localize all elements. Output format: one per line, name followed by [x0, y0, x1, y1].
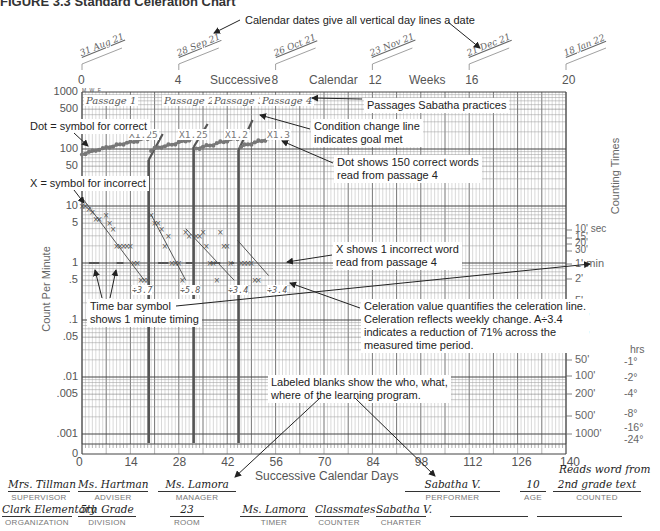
correct-multiplier-label: X1.25	[178, 129, 209, 140]
callout-condition-change: Condition change line indicates goal met	[311, 119, 423, 147]
field-value: Ms. Lamora	[158, 477, 236, 492]
top-week-tick: 20	[562, 73, 575, 87]
passage-label: Passage 3	[212, 95, 266, 106]
form-field-supervisor[interactable]: Mrs. TillmanSUPERVISOR	[8, 477, 70, 502]
form-field-timer[interactable]: Ms. LamoraTIMER	[240, 502, 308, 527]
field-value: 2nd grade text	[553, 477, 641, 492]
field-value: Ms. Lamora	[240, 502, 308, 517]
svg-text:×: ×	[248, 259, 255, 268]
field-value: Ms. Hartman	[78, 477, 148, 492]
svg-text:×: ×	[200, 228, 207, 237]
svg-text:×: ×	[217, 228, 224, 237]
field-value: Sabatha V.	[376, 502, 426, 517]
bottom-day-tick: 56	[270, 455, 283, 469]
y-axis-tick: 50	[38, 159, 78, 171]
callout-calendar-dates: Calendar dates give all vertical day lin…	[242, 13, 478, 28]
counting-hour-label: -24°	[624, 433, 643, 445]
form-field-age[interactable]: 10AGE	[520, 477, 546, 502]
field-value: Mrs. Tillman	[8, 477, 70, 492]
form-field-blank[interactable]	[537, 502, 622, 518]
bottom-day-tick: 84	[366, 455, 379, 469]
field-value: 23	[170, 502, 204, 517]
celeration-value-label: ÷5.8	[180, 285, 200, 295]
counting-time-label: 1' min	[575, 257, 604, 269]
correct-multiplier-label: X1.3	[266, 129, 291, 140]
field-caption: AGE	[520, 493, 546, 502]
callout-labeled-blanks: Labeled blanks show the who, what, where…	[268, 375, 451, 403]
form-field-manager[interactable]: Ms. LamoraMANAGER	[158, 477, 236, 502]
callout-line: measured time period.	[364, 339, 586, 352]
field-value: 5th Grade	[78, 502, 136, 517]
form-field-adviser[interactable]: Ms. HartmanADVISER	[78, 477, 148, 502]
counting-hour-label: -8°	[624, 407, 638, 419]
callout-line: Condition change line	[314, 120, 420, 133]
callout-line: Dot shows 150 correct words	[337, 156, 479, 169]
field-caption: DIVISION	[78, 518, 136, 527]
field-value: Sabatha V.	[405, 477, 500, 492]
svg-text:×: ×	[165, 232, 172, 241]
bottom-day-tick: 112	[463, 455, 482, 469]
bottom-day-tick: 70	[318, 455, 331, 469]
form-field-division[interactable]: 5th GradeDIVISION	[78, 502, 136, 527]
counting-time-label: 50'	[575, 353, 589, 365]
bottom-day-tick: 0	[76, 455, 83, 469]
y-axis-title: Count Per Minute	[40, 239, 52, 339]
form-field-performer[interactable]: Sabatha V.PERFORMER	[405, 477, 500, 502]
callout-line: indicates a reduction of 71% across the	[364, 326, 586, 339]
callout-time-bar: Time bar symbol shows 1 minute timing	[87, 299, 202, 327]
top-week-tick: 12	[368, 73, 381, 87]
field-value: Classmates	[315, 502, 363, 517]
counting-time-label: 2'	[575, 272, 583, 284]
svg-text:×: ×	[110, 225, 117, 234]
day-letters: M W F	[82, 87, 102, 93]
bottom-axis-title: Successive Calendar Days	[255, 469, 398, 483]
form-field-charter[interactable]: Sabatha V.CHARTER	[376, 502, 426, 527]
y-axis-tick: .001	[38, 427, 78, 439]
form-field-counter[interactable]: ClassmatesCOUNTER	[315, 502, 363, 527]
y-axis-tick: 1000	[38, 85, 78, 97]
y-axis-tick: 100	[38, 142, 78, 154]
form-field-blank[interactable]	[450, 502, 528, 518]
celeration-value-label: ÷3.4	[228, 285, 248, 295]
callout-celeration: Celeration value quantifies the celerati…	[361, 299, 589, 353]
top-week-tick: 4	[175, 73, 182, 87]
callout-line: read from passage 4	[336, 256, 459, 269]
svg-text:×: ×	[213, 276, 220, 285]
y-axis-tick: 0	[38, 447, 78, 459]
counting-hour-label: -4°	[624, 387, 638, 399]
field-caption: SUPERVISOR	[8, 493, 70, 502]
top-week-tick: 8	[272, 73, 279, 87]
callout-line: X shows 1 incorrect word	[336, 243, 459, 256]
bottom-day-tick: 42	[221, 455, 234, 469]
callout-line: read from passage 4	[337, 169, 479, 182]
top-axis-successive: Successive	[210, 73, 271, 87]
svg-text:×: ×	[144, 276, 151, 285]
field-caption: COUNTER	[315, 518, 363, 527]
callout-line: Celeration value quantifies the celerati…	[364, 300, 586, 313]
counting-hour-label: hrs	[630, 343, 645, 355]
svg-text:×: ×	[134, 259, 141, 268]
counting-time-label: 100'	[575, 369, 595, 381]
bottom-day-tick: 28	[173, 455, 186, 469]
field-caption: ROOM	[170, 518, 204, 527]
callout-passages: Passages Sabatha practices	[364, 98, 509, 113]
form-field-counted[interactable]: Reads word from2nd grade textCOUNTED	[553, 477, 641, 502]
form-field-organization[interactable]: Clark ElementaryORGANIZATION	[2, 502, 72, 527]
counting-time-label: 30'	[575, 244, 588, 255]
svg-text:×: ×	[255, 276, 262, 285]
counting-time-label: 200'	[575, 387, 595, 399]
form-field-room[interactable]: 23ROOM	[170, 502, 204, 527]
field-caption: TIMER	[240, 518, 308, 527]
field-caption: MANAGER	[158, 493, 236, 502]
svg-text:×: ×	[96, 215, 103, 224]
top-axis-calendar: Calendar	[309, 73, 358, 87]
top-axis-weeks: Weeks	[409, 73, 445, 87]
field-value: Clark Elementary	[2, 502, 72, 517]
field-value: 10	[520, 477, 546, 492]
passage-label: Passage 4	[260, 95, 314, 106]
y-axis-tick: 500	[38, 102, 78, 114]
bottom-day-tick: 126	[512, 455, 532, 469]
field-value	[450, 502, 528, 517]
passage-label: Passage 1	[84, 95, 138, 106]
bottom-day-tick: 98	[415, 455, 428, 469]
